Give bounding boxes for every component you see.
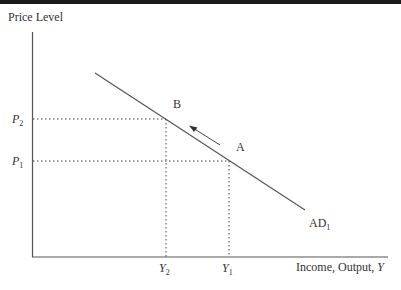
x-axis-label: Income, Output, Y xyxy=(296,260,385,274)
ad-curve-label: AD1 xyxy=(309,216,330,232)
y-tick-p2: P2 xyxy=(11,112,23,128)
y-axis-label: Price Level xyxy=(8,10,64,24)
arrow-head-icon xyxy=(189,126,198,133)
y-tick-p1: P1 xyxy=(11,154,23,170)
x-tick-y1: Y1 xyxy=(222,261,233,277)
point-b-label: B xyxy=(173,97,181,111)
movement-arrow xyxy=(193,128,220,145)
ad-curve xyxy=(95,73,305,210)
point-a-label: A xyxy=(236,140,245,154)
ad-diagram: Price Level B A AD1 P2 P1 Y2 Y1 Income, … xyxy=(0,0,401,290)
x-tick-y2: Y2 xyxy=(159,261,170,277)
